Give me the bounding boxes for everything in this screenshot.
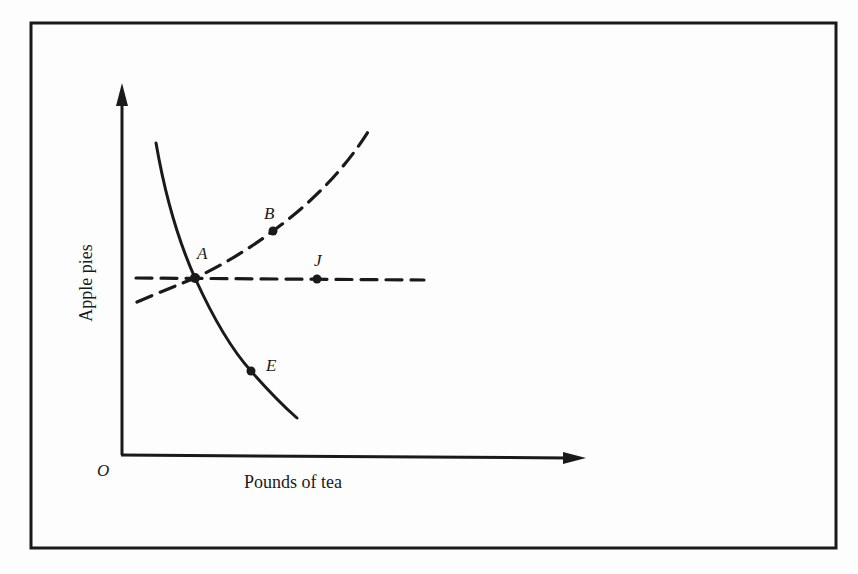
horizontal-dashed-line xyxy=(136,278,424,280)
point-a-label: A xyxy=(196,244,208,263)
y-axis-label: Apple pies xyxy=(76,244,96,321)
point-a-marker xyxy=(190,273,200,283)
x-axis-label: Pounds of tea xyxy=(244,472,342,492)
x-axis-arrow-icon xyxy=(563,452,586,464)
point-j-label: J xyxy=(314,251,323,270)
y-axis-arrow-icon xyxy=(116,83,128,106)
y-axis xyxy=(116,83,128,455)
x-axis xyxy=(121,452,586,464)
point-b-marker xyxy=(269,227,278,236)
point-b-label: B xyxy=(264,204,275,223)
diagram: A B J E O Pounds of tea Apple pies xyxy=(0,0,858,574)
point-e-marker xyxy=(247,367,256,376)
point-j-marker xyxy=(313,275,322,284)
point-e-label: E xyxy=(265,356,277,375)
origin-label: O xyxy=(97,461,109,480)
frame-border xyxy=(31,23,836,548)
